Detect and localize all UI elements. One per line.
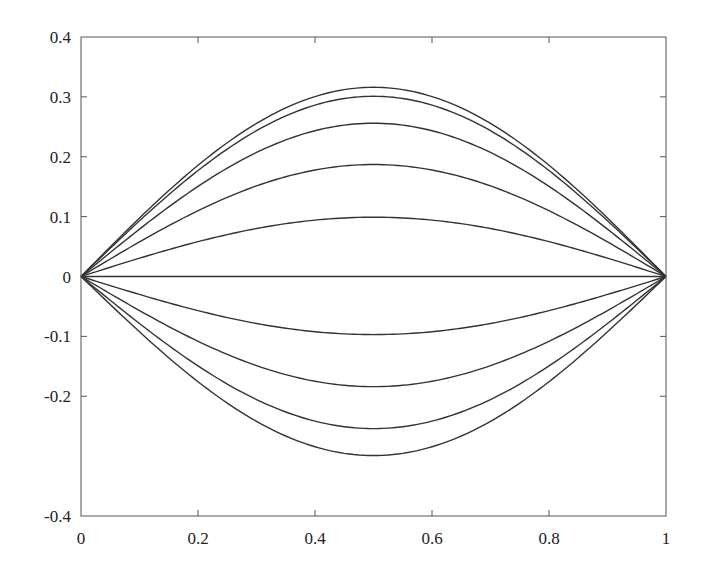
y-tick-label: -0.4 — [44, 507, 71, 526]
x-axis: 00.20.40.60.81 — [77, 37, 671, 548]
series-line-4 — [81, 165, 666, 277]
y-tick-label: 0.4 — [50, 28, 72, 47]
chart: 00.20.40.60.81 -0.4-0.2-0.100.10.20.30.4 — [0, 0, 701, 579]
x-tick-label: 0.6 — [421, 529, 442, 548]
series-line-1 — [81, 87, 666, 276]
y-tick-label: 0.2 — [50, 148, 71, 167]
y-tick-label: 0.1 — [50, 208, 71, 227]
series-line-3 — [81, 123, 666, 276]
y-tick-label: -0.2 — [44, 387, 71, 406]
y-tick-label: 0 — [63, 268, 72, 287]
line-chart: 00.20.40.60.81 -0.4-0.2-0.100.10.20.30.4 — [0, 0, 701, 579]
curves-group — [81, 87, 666, 455]
series-line-9 — [81, 277, 666, 429]
x-tick-label: 0.8 — [538, 529, 559, 548]
x-tick-label: 0 — [77, 529, 86, 548]
x-tick-label: 0.2 — [187, 529, 208, 548]
x-tick-label: 1 — [662, 529, 671, 548]
series-line-8 — [81, 277, 666, 387]
x-tick-label: 0.4 — [304, 529, 326, 548]
y-tick-label: -0.1 — [44, 327, 71, 346]
y-tick-label: 0.3 — [50, 88, 71, 107]
